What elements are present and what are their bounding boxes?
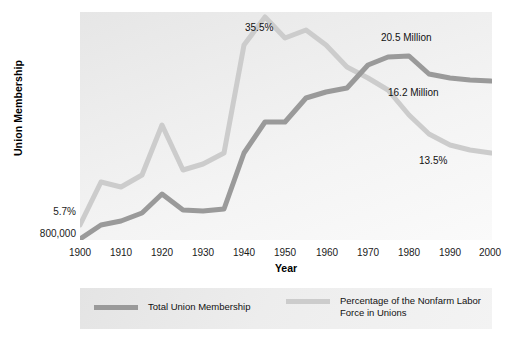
legend-label-membership: Total Union Membership <box>148 301 250 313</box>
annotation-membership-end: 16.2 Million <box>388 87 439 98</box>
membership-start-label: 800,000 <box>0 228 76 239</box>
x-axis-title: Year <box>80 262 492 274</box>
x-tick-1960: 1960 <box>304 247 350 258</box>
plot-area <box>80 12 492 240</box>
chart-legend: Total Union Membership Percentage of the… <box>80 288 492 329</box>
x-tick-1930: 1930 <box>180 247 226 258</box>
x-tick-1970: 1970 <box>345 247 391 258</box>
x-tick-1980: 1980 <box>386 247 432 258</box>
x-tick-1940: 1940 <box>221 247 267 258</box>
annotation-percentage-end: 13.5% <box>419 155 447 166</box>
x-tick-1950: 1950 <box>262 247 308 258</box>
x-tick-2000: 2000 <box>467 247 513 258</box>
annotation-membership-peak: 20.5 Million <box>381 32 432 43</box>
legend-swatch-percentage-icon <box>286 299 330 304</box>
x-tick-1900: 1900 <box>57 247 103 258</box>
legend-swatch-membership-icon <box>94 305 138 310</box>
annotation-percentage-peak: 35.5% <box>245 22 273 33</box>
legend-entry-total-union-membership: Total Union Membership <box>94 301 250 313</box>
series-line-membership <box>80 56 491 239</box>
legend-label-percentage: Percentage of the Nonfarm Labor Force in… <box>340 295 481 318</box>
x-tick-1920: 1920 <box>139 247 185 258</box>
x-tick-1910: 1910 <box>98 247 144 258</box>
y-axis-title: Union Membership <box>12 28 24 188</box>
plot-lines-svg <box>80 12 492 240</box>
union-membership-chart-figure: Union Membership 5.7% 800,000 35.5% 20.5… <box>0 0 513 345</box>
x-axis-tick-row: 1900 1910 1920 1930 1940 1950 1960 1970 … <box>80 247 492 261</box>
legend-entry-percentage-nonfarm-labor: Percentage of the Nonfarm Labor Force in… <box>286 295 481 318</box>
percentage-start-label: 5.7% <box>6 206 76 217</box>
